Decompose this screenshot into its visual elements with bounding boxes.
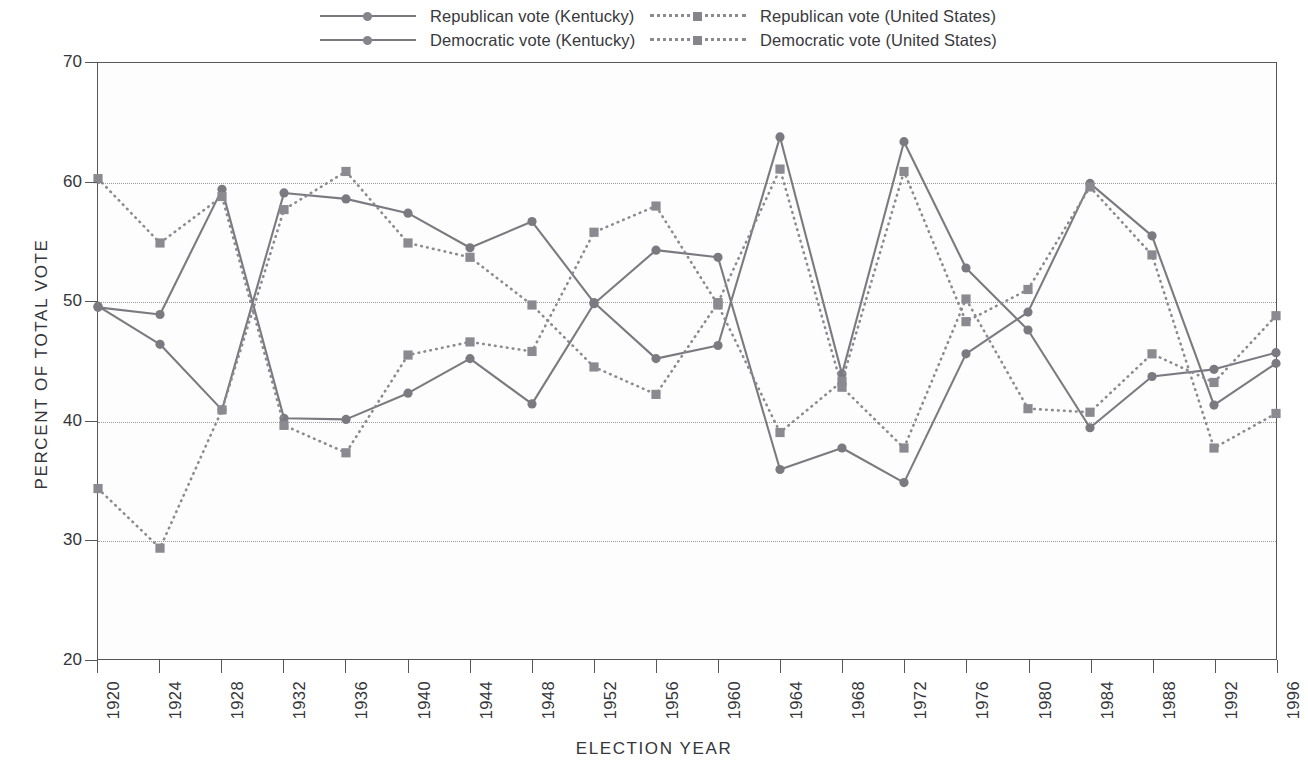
x-axis-tick	[1091, 660, 1092, 673]
data-point	[713, 298, 722, 307]
series-line	[98, 171, 1276, 452]
series-2	[93, 132, 1280, 432]
x-axis-tick-label: 1968	[849, 681, 868, 719]
x-axis-tick-label: 1940	[415, 681, 434, 719]
legend-item-dem-united-states: Democratic vote (United States)	[650, 28, 1080, 52]
data-point	[403, 209, 412, 218]
x-axis-tick-label: 1980	[1036, 681, 1055, 719]
x-axis-tick-label: 1956	[663, 681, 682, 719]
data-point	[93, 302, 102, 311]
legend-item-dem-kentucky: Democratic vote (Kentucky)	[320, 28, 650, 52]
data-point	[899, 443, 908, 452]
data-point	[775, 428, 784, 437]
data-point	[155, 340, 164, 349]
data-point	[1209, 401, 1218, 410]
data-point	[1147, 349, 1156, 358]
x-axis-tick-label: 1928	[228, 681, 247, 719]
x-axis-tick-label: 1964	[787, 681, 806, 719]
legend-item-rep-kentucky: Republican vote (Kentucky)	[320, 4, 650, 28]
data-point	[589, 298, 598, 307]
data-point	[1271, 409, 1280, 418]
data-point	[155, 310, 164, 319]
y-axis-tick-label: 50	[22, 291, 82, 311]
x-axis-tick	[345, 660, 346, 673]
x-axis-tick	[718, 660, 719, 673]
data-point	[713, 253, 722, 262]
x-axis-tick-label: 1988	[1160, 681, 1179, 719]
x-axis-tick	[1277, 660, 1278, 673]
chart-figure: Republican vote (Kentucky) Republican vo…	[0, 0, 1308, 770]
x-axis-tick-label: 1984	[1098, 681, 1117, 719]
x-axis-tick	[470, 660, 471, 673]
data-point	[651, 354, 660, 363]
data-point	[279, 205, 288, 214]
x-axis-tick	[1153, 660, 1154, 673]
data-point	[341, 415, 350, 424]
x-axis-tick	[904, 660, 905, 673]
x-axis-tick	[656, 660, 657, 673]
data-point	[961, 349, 970, 358]
data-point	[403, 350, 412, 359]
data-point	[1085, 182, 1094, 191]
y-axis-tick-label: 40	[22, 411, 82, 431]
data-point	[899, 478, 908, 487]
data-point	[899, 137, 908, 146]
legend-label: Republican vote (United States)	[746, 7, 996, 26]
data-point	[961, 317, 970, 326]
y-axis-tick	[85, 421, 97, 422]
x-axis-tick-label: 1944	[477, 681, 496, 719]
series-1	[93, 179, 1280, 487]
data-point	[465, 354, 474, 363]
y-axis-tick	[85, 182, 97, 183]
x-axis-tick-label: 1992	[1222, 681, 1241, 719]
data-point	[155, 544, 164, 553]
data-point	[713, 341, 722, 350]
data-point	[403, 238, 412, 247]
x-axis-tick-label: 1976	[973, 681, 992, 719]
y-axis-tick-label: 60	[22, 172, 82, 192]
y-axis-tick	[85, 540, 97, 541]
data-point	[1023, 325, 1032, 334]
legend-swatch-solid-circle-icon	[320, 9, 416, 23]
y-axis-tick	[85, 301, 97, 302]
x-axis-tick	[221, 660, 222, 673]
x-axis-tick-label: 1960	[725, 681, 744, 719]
y-axis-title: PERCENT OF TOTAL VOTE	[32, 64, 52, 664]
x-axis-tick-label: 1936	[352, 681, 371, 719]
data-point	[1023, 404, 1032, 413]
x-axis-title: ELECTION YEAR	[0, 739, 1308, 759]
data-point	[961, 294, 970, 303]
data-point	[837, 443, 846, 452]
legend-label: Democratic vote (United States)	[746, 31, 997, 50]
data-point	[465, 337, 474, 346]
data-point	[1085, 423, 1094, 432]
y-axis-tick	[85, 660, 97, 661]
data-point	[279, 421, 288, 430]
data-point	[1147, 231, 1156, 240]
data-point	[775, 465, 784, 474]
data-point	[341, 194, 350, 203]
y-axis-tick-label: 70	[22, 52, 82, 72]
x-axis-tick	[408, 660, 409, 673]
data-point	[1209, 443, 1218, 452]
x-axis-tick-label: 1996	[1284, 681, 1303, 719]
data-point	[651, 246, 660, 255]
x-axis-tick	[594, 660, 595, 673]
x-axis-tick	[159, 660, 160, 673]
data-point	[93, 484, 102, 493]
data-point	[1147, 372, 1156, 381]
legend-item-rep-united-states: Republican vote (United States)	[650, 4, 1080, 28]
data-point	[527, 347, 536, 356]
legend-label: Democratic vote (Kentucky)	[416, 31, 635, 50]
legend-swatch-dotted-square-icon	[650, 9, 746, 23]
data-point	[899, 167, 908, 176]
chart-legend: Republican vote (Kentucky) Republican vo…	[320, 4, 1080, 54]
data-point	[527, 300, 536, 309]
data-point	[217, 405, 226, 414]
x-axis-tick-label: 1952	[601, 681, 620, 719]
x-axis-tick	[532, 660, 533, 673]
data-point	[837, 383, 846, 392]
data-point	[527, 217, 536, 226]
data-point	[961, 263, 970, 272]
data-point	[651, 201, 660, 210]
